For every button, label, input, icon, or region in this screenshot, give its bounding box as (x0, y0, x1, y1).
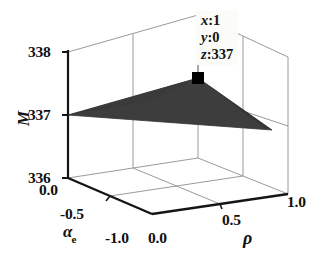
rho-axis-title: ρ (243, 228, 252, 249)
surface-plot-figure: 338 337 336 M 0.0 -0.5 -1.0 αe 0.0 0.5 1… (0, 0, 326, 275)
datatip-box[interactable]: x:1 y:0 z:337 (196, 11, 238, 65)
rho-tick-label-1-0: 1.0 (287, 193, 306, 211)
axis-lines (62, 50, 288, 214)
axis-alpha-tick-mid (106, 196, 110, 201)
alpha-axis-title: αe (63, 222, 77, 243)
datatip-x-value: 1 (213, 12, 220, 28)
alpha-tick-label-0: 0.0 (39, 181, 58, 199)
datatip-row-z: z:337 (201, 46, 233, 63)
alpha-tick-label-minus-0-5: -0.5 (60, 205, 84, 223)
surface-polygon-main (68, 78, 272, 130)
z-tick-label-338: 338 (28, 43, 51, 61)
datatip-row-x: x:1 (201, 12, 233, 29)
surface-mesh (68, 78, 272, 130)
datatip-y-value: 0 (212, 29, 219, 45)
datatip-row-y: y:0 (201, 29, 233, 46)
gridline-floor-rho-mid (133, 168, 220, 204)
rho-tick-label-0: 0.0 (148, 229, 167, 247)
datatip-marker[interactable] (192, 72, 204, 84)
z-axis-title: M (14, 111, 34, 126)
datatip-z-value: 337 (212, 46, 234, 62)
alpha-tick-label-minus-1-0: -1.0 (105, 229, 129, 247)
rho-tick-label-0-5: 0.5 (222, 211, 241, 229)
alpha-axis-title-subscript: e (71, 233, 76, 245)
